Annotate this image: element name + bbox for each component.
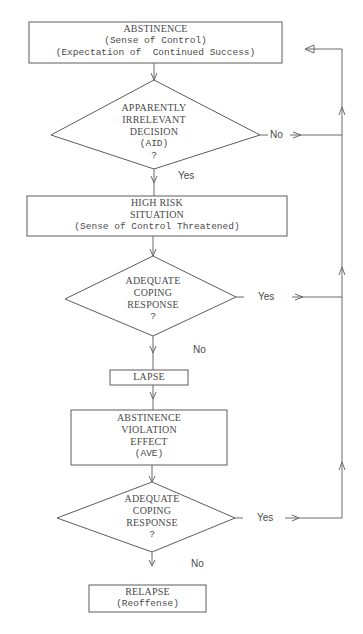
node-line: SITUATION bbox=[27, 209, 287, 221]
node-line: COPING bbox=[93, 287, 213, 299]
edge-label-coping1-no: No bbox=[193, 344, 206, 355]
edge-label-aid-yes: Yes bbox=[178, 170, 194, 181]
edge-label-coping2-no: No bbox=[191, 558, 204, 569]
node-line: LAPSE bbox=[110, 371, 188, 383]
node-line: EFFECT bbox=[71, 436, 227, 448]
edge-label-coping2-yes: Yes bbox=[257, 512, 273, 523]
node-line: (AVE) bbox=[71, 448, 227, 460]
node-line: ABSTINENCE bbox=[29, 23, 282, 35]
node-line: RESPONSE bbox=[93, 299, 213, 311]
node-line: (Reoffense) bbox=[89, 598, 206, 610]
node-line: (Sense of Control Threatened) bbox=[27, 221, 287, 233]
node-line: ADEQUATE bbox=[92, 493, 212, 505]
node-line: ADEQUATE bbox=[93, 275, 213, 287]
node-line: RESPONSE bbox=[92, 517, 212, 529]
lapse-node: LAPSE bbox=[110, 371, 188, 383]
coping-1-node: ADEQUATE COPING RESPONSE ? bbox=[93, 275, 213, 323]
node-line: COPING bbox=[92, 505, 212, 517]
node-line: ? bbox=[94, 150, 214, 162]
node-line: (AID) bbox=[94, 138, 214, 150]
ave-node: ABSTINENCE VIOLATION EFFECT (AVE) bbox=[71, 412, 227, 460]
high-risk-node: HIGH RISK SITUATION (Sense of Control Th… bbox=[27, 197, 287, 233]
node-line: APPARENTLY bbox=[94, 102, 214, 114]
node-line: IRRELEVANT bbox=[94, 114, 214, 126]
node-line: (Sense of Control) bbox=[29, 35, 282, 47]
edge-label-coping1-yes: Yes bbox=[258, 291, 274, 302]
node-line: DECISION bbox=[94, 126, 214, 138]
node-line: VIOLATION bbox=[71, 424, 227, 436]
node-line: ABSTINENCE bbox=[71, 412, 227, 424]
abstinence-node: ABSTINENCE (Sense of Control) (Expectati… bbox=[29, 23, 282, 59]
aid-decision-node: APPARENTLY IRRELEVANT DECISION (AID) ? bbox=[94, 102, 214, 162]
coping-2-node: ADEQUATE COPING RESPONSE ? bbox=[92, 493, 212, 541]
edge-label-aid-no: No bbox=[270, 129, 283, 140]
node-line: RELAPSE bbox=[89, 586, 206, 598]
node-line: ? bbox=[92, 529, 212, 541]
node-line: HIGH RISK bbox=[27, 197, 287, 209]
relapse-node: RELAPSE (Reoffense) bbox=[89, 586, 206, 610]
node-line: (Expectation of Continued Success) bbox=[29, 47, 282, 59]
node-line: ? bbox=[93, 311, 213, 323]
